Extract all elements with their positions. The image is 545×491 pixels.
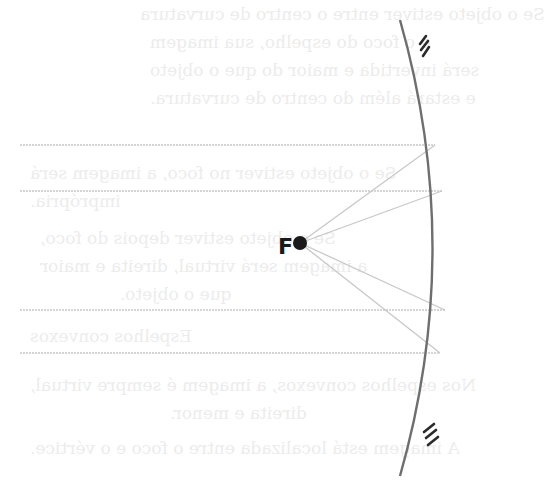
focus-label: F xyxy=(278,234,293,259)
parallel-rays xyxy=(20,145,445,353)
focus-point xyxy=(293,236,307,250)
ray-1-reflected xyxy=(300,145,435,243)
reflected-rays xyxy=(300,145,445,353)
concave-mirror xyxy=(400,20,433,476)
mirror-hatch-bottom-icon xyxy=(424,424,438,445)
ray-2-reflected xyxy=(300,191,442,243)
mirror-hatch-top-icon xyxy=(420,36,429,56)
